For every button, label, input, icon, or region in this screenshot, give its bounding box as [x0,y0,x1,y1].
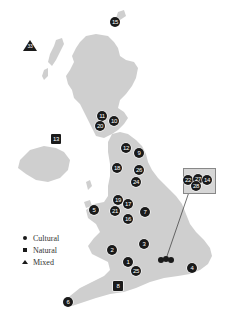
site-marker-21[interactable]: 21 [110,206,120,216]
site-marker-12[interactable]: 12 [121,143,131,153]
site-marker-11[interactable]: 11 [97,111,107,121]
site-marker-25[interactable]: 25 [131,266,141,276]
site-marker-28[interactable]: 28 [191,181,201,191]
legend: Cultural Natural Mixed [20,232,59,268]
square-icon [20,248,30,252]
london-cluster[interactable] [158,256,174,263]
site-marker-10[interactable]: 10 [109,116,119,126]
site-marker-3[interactable]: 3 [139,239,149,249]
england-wales-landmass [64,132,212,306]
site-marker-1[interactable]: 1 [123,257,133,267]
site-marker-16[interactable]: 16 [123,214,133,224]
site-marker-7[interactable]: 7 [140,207,150,217]
legend-item-mixed: Mixed [20,256,59,268]
site-marker-20[interactable]: 20 [95,121,105,131]
site-marker-8[interactable]: 8 [113,281,123,291]
site-marker-26[interactable]: 26 [134,165,144,175]
circle-icon [20,236,30,240]
isle-of-man [86,180,92,190]
site-marker-2[interactable]: 2 [107,245,117,255]
site-marker-19[interactable]: 19 [113,195,123,205]
triangle-icon [20,260,30,264]
hebrides [48,38,64,66]
legend-item-natural: Natural [20,244,59,256]
site-marker-6[interactable]: 6 [63,297,73,307]
northern-ireland [18,146,70,182]
legend-label: Mixed [33,258,54,267]
site-marker-17[interactable]: 17 [123,199,133,209]
site-marker-24[interactable]: 24 [131,177,141,187]
legend-label: Cultural [33,234,59,243]
site-marker-4[interactable]: 4 [187,263,197,273]
site-marker-18[interactable]: 18 [112,163,122,173]
legend-item-cultural: Cultural [20,232,59,244]
site-marker-15[interactable]: 15 [110,17,120,27]
marker-label: 33 [25,43,35,50]
legend-label: Natural [33,246,57,255]
hebrides-south [42,68,48,80]
site-marker-9[interactable]: 9 [134,148,144,158]
site-marker-33[interactable]: 33 [23,40,37,51]
site-marker-13[interactable]: 13 [51,134,61,144]
site-marker-5[interactable]: 5 [89,205,99,215]
site-marker-14[interactable]: 14 [202,175,212,185]
